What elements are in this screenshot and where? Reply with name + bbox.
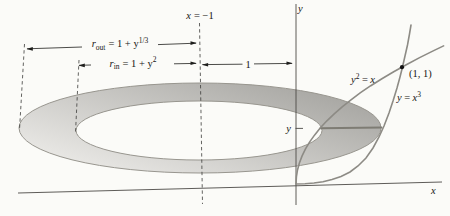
axis-of-revolution-dashed-line [200, 23, 203, 204]
outer-radius-superscript: 1/3 [139, 36, 149, 45]
inner-radius-label: rin= 1 + y2 [110, 55, 157, 71]
offset-arrow-right-segment [254, 63, 292, 64]
intersection-point-label: (1, 1) [409, 68, 432, 80]
offset-one-label: 1 [245, 59, 250, 70]
outer-radius-right-arrowhead-icon [191, 41, 197, 45]
offset-left-arrowhead-icon [202, 63, 208, 67]
slice-height-label: y [285, 123, 291, 134]
parabola-superscript: 2 [356, 72, 360, 81]
cubic-equation-label: y=x3 [396, 90, 421, 103]
washer-method-figure: x= −1 rout= 1 + y1/3 rin= 1 + y2 1 y2=x … [0, 0, 450, 216]
figure-canvas: x= −1 rout= 1 + y1/3 rin= 1 + y2 1 y2=x … [0, 0, 450, 216]
inner-radius-left-arrowhead-icon [79, 64, 85, 68]
cubic-equals: = [404, 92, 410, 103]
cubic-var: y [396, 92, 402, 103]
offset-right-arrowhead-icon [287, 62, 293, 66]
outer-radius-subscript: out [96, 43, 107, 52]
rotation-axis-eq: = −1 [194, 10, 214, 21]
x-axis-line [18, 182, 442, 193]
inner-radius-right-arrowhead-icon [191, 62, 197, 66]
inner-radius-eq: = 1 + y [122, 58, 153, 69]
parabola-rhs: x [369, 74, 375, 85]
parabola-equals: = [362, 74, 368, 85]
intersection-point-dot [400, 65, 404, 69]
parabola-equation-label: y2=x [350, 72, 375, 85]
outer-radius-left-arrowhead-icon [27, 47, 33, 51]
inner-radius-subscript: in [114, 62, 120, 71]
outer-radius-eq: = 1 + y [108, 38, 139, 49]
y-axis-label: y [297, 3, 303, 14]
rotation-axis-label: x= −1 [185, 10, 213, 21]
cubic-superscript: 3 [417, 90, 421, 99]
outer-radius-arrow-right-segment [158, 43, 196, 44]
x-axis-label: x [430, 185, 436, 196]
outer-radius-label: rout= 1 + y1/3 [92, 36, 149, 52]
inner-radius-superscript: 2 [153, 55, 157, 64]
washer-slice-segment [321, 128, 382, 129]
outer-radius-arrow-left-segment [27, 47, 82, 49]
rotation-axis-var: x [185, 10, 191, 21]
